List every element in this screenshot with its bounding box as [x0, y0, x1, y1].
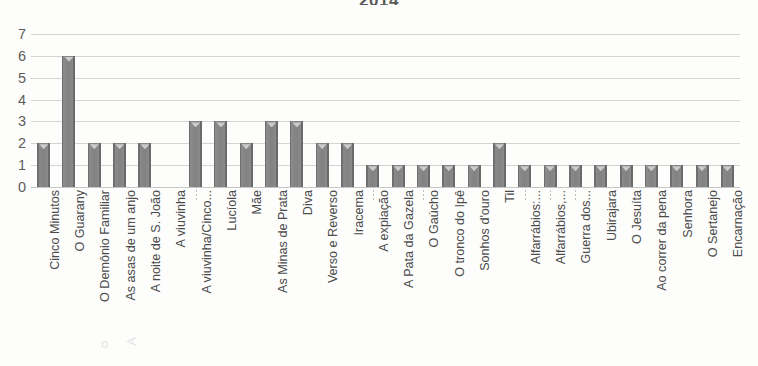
- x-tick-label: Til: [504, 190, 517, 203]
- x-tick-label: O Jesuíta: [631, 190, 644, 244]
- bar[interactable]: [214, 121, 227, 187]
- bars-layer: [31, 34, 740, 187]
- y-tick-label-5: 5: [0, 70, 26, 85]
- x-tick-label: O Gaúcho: [428, 190, 441, 247]
- bar[interactable]: [88, 143, 101, 187]
- bar[interactable]: [113, 143, 126, 187]
- y-tick-label-4: 4: [0, 92, 26, 107]
- x-tick-label: Ao correr da pena: [656, 190, 669, 291]
- tick-leader-dot: [575, 186, 576, 200]
- bar[interactable]: [721, 165, 734, 187]
- y-tick-label-3: 3: [0, 114, 26, 129]
- bar[interactable]: [594, 165, 607, 187]
- x-tick-label: Guerra dos...: [580, 190, 593, 264]
- x-tick-label: O Guarany: [74, 190, 87, 252]
- tick-leader-dot: [196, 186, 197, 200]
- bar[interactable]: [265, 121, 278, 187]
- bar[interactable]: [544, 165, 557, 187]
- x-axis: Cinco MinutosO GuaranyO Demônio Familiar…: [31, 188, 740, 308]
- bar[interactable]: [569, 165, 582, 187]
- x-tick-label: O tronco do Ipê: [454, 190, 467, 277]
- bar[interactable]: [366, 165, 379, 187]
- bar[interactable]: [189, 121, 202, 187]
- x-tick-label: Lucíola: [226, 190, 239, 231]
- bar[interactable]: [468, 165, 481, 187]
- bleed-glyph-2: A: [124, 337, 139, 346]
- bar[interactable]: [392, 165, 405, 187]
- bar[interactable]: [696, 165, 709, 187]
- x-tick-label: A expiação: [378, 190, 391, 252]
- x-tick-label: Verso e Reverso: [327, 190, 340, 283]
- x-tick-label: O Sertanejo: [707, 190, 720, 257]
- tick-leader-dot: [423, 186, 424, 200]
- x-tick-label: Alfarrábios,...: [555, 190, 568, 264]
- y-tick-label-6: 6: [0, 49, 26, 64]
- tick-leader-dot: [550, 186, 551, 200]
- bar[interactable]: [37, 143, 50, 187]
- y-tick-label-7: 7: [0, 27, 26, 42]
- y-tick-label-2: 2: [0, 136, 26, 151]
- bar[interactable]: [240, 143, 253, 187]
- x-tick-label: Iracema: [353, 190, 366, 236]
- x-tick-label: A viuvinha/Cinco...: [201, 190, 214, 294]
- bar[interactable]: [645, 165, 658, 187]
- x-tick-label: O Demônio Familiar: [99, 190, 112, 302]
- y-axis: 01234567: [0, 34, 26, 187]
- bar[interactable]: [138, 143, 151, 187]
- bar[interactable]: [442, 165, 455, 187]
- x-tick-label: Mãe: [251, 190, 264, 215]
- page-bleed-artifact: o A: [0, 334, 758, 364]
- bar[interactable]: [417, 165, 430, 187]
- bleed-glyph-1: o: [101, 336, 108, 351]
- bar[interactable]: [493, 143, 506, 187]
- bar[interactable]: [620, 165, 633, 187]
- bar[interactable]: [341, 143, 354, 187]
- bar[interactable]: [316, 143, 329, 187]
- tick-leader-dot: [373, 186, 374, 200]
- x-tick-label: As asas de um anjo: [125, 190, 138, 301]
- x-tick-label: Ubirajara: [606, 190, 619, 241]
- x-tick-label: A Pata da Gazela: [403, 190, 416, 288]
- x-tick-label: Sonhos d'ouro: [479, 190, 492, 271]
- x-tick-label: Cinco Minutos: [49, 190, 62, 270]
- bar[interactable]: [518, 165, 531, 187]
- x-tick-label: A noite de S. João: [150, 190, 163, 292]
- y-tick-label-1: 1: [0, 158, 26, 173]
- y-tick-label-0: 0: [0, 180, 26, 195]
- x-tick-label: As Minas de Prata: [277, 190, 290, 293]
- x-tick-label: Diva: [302, 190, 315, 215]
- x-tick-label: Encarnação: [732, 190, 745, 257]
- x-tick-label: A viuvinha: [175, 190, 188, 247]
- bar[interactable]: [62, 56, 75, 187]
- tick-leader-dot: [525, 186, 526, 200]
- chart-title: 2014: [0, 0, 758, 5]
- x-tick-label: Senhora: [682, 190, 695, 238]
- bar[interactable]: [290, 121, 303, 187]
- x-tick-label: Alfarrábios:...: [530, 190, 543, 264]
- bar[interactable]: [670, 165, 683, 187]
- bar-chart-figure: 2014 01234567 Cinco MinutosO GuaranyO De…: [0, 0, 758, 366]
